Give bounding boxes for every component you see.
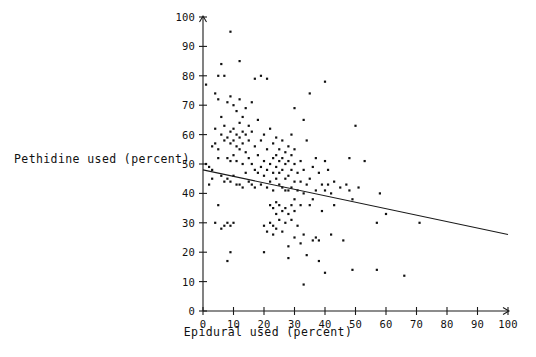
data-point <box>281 157 283 159</box>
data-point <box>290 219 292 221</box>
data-point <box>232 128 234 130</box>
data-point <box>318 260 320 262</box>
data-point <box>293 163 295 165</box>
data-point <box>251 101 253 103</box>
data-point <box>248 157 250 159</box>
data-point <box>281 210 283 212</box>
data-point <box>229 95 231 97</box>
data-point <box>266 78 268 80</box>
data-point <box>245 107 247 109</box>
data-point <box>324 272 326 274</box>
data-point <box>318 239 320 241</box>
data-point <box>223 181 225 183</box>
data-point <box>260 166 262 168</box>
data-point <box>248 139 250 141</box>
data-point <box>284 163 286 165</box>
data-point <box>354 125 356 127</box>
data-point <box>272 233 274 235</box>
data-point <box>232 222 234 224</box>
data-point <box>287 160 289 162</box>
data-point <box>275 136 277 138</box>
data-point <box>235 160 237 162</box>
data-point <box>330 192 332 194</box>
data-point <box>287 175 289 177</box>
data-point <box>226 178 228 180</box>
data-point <box>223 75 225 77</box>
data-point <box>260 139 262 141</box>
data-point <box>229 225 231 227</box>
y-tick-label: 0 <box>155 305 195 317</box>
data-point <box>214 222 216 224</box>
data-point <box>220 175 222 177</box>
data-point <box>303 233 305 235</box>
data-point <box>239 183 241 185</box>
data-point <box>275 201 277 203</box>
data-point <box>211 169 213 171</box>
data-point <box>235 110 237 112</box>
data-point <box>376 222 378 224</box>
data-point <box>235 183 237 185</box>
data-point <box>239 60 241 62</box>
y-tick-label: 80 <box>155 70 195 82</box>
data-point <box>257 154 259 156</box>
data-point <box>278 160 280 162</box>
axes-group <box>200 16 510 315</box>
data-point <box>351 198 353 200</box>
data-point <box>379 192 381 194</box>
data-point <box>220 63 222 65</box>
data-point <box>333 204 335 206</box>
data-point <box>269 128 271 130</box>
data-point <box>217 148 219 150</box>
data-point <box>385 213 387 215</box>
data-point <box>306 254 308 256</box>
data-point <box>239 98 241 100</box>
data-point <box>245 134 247 136</box>
data-point <box>345 183 347 185</box>
data-point <box>245 151 247 153</box>
data-point <box>287 257 289 259</box>
data-point <box>232 154 234 156</box>
data-point <box>214 142 216 144</box>
data-point <box>278 204 280 206</box>
data-point <box>220 116 222 118</box>
data-point <box>309 204 311 206</box>
data-point <box>315 189 317 191</box>
data-point <box>211 145 213 147</box>
data-points-group <box>205 31 421 286</box>
data-point <box>269 222 271 224</box>
data-point <box>306 139 308 141</box>
data-point <box>229 251 231 253</box>
data-point <box>245 172 247 174</box>
data-point <box>229 142 231 144</box>
y-tick-label: 50 <box>155 158 195 170</box>
data-point <box>260 75 262 77</box>
y-tick-label: 70 <box>155 99 195 111</box>
data-point <box>272 172 274 174</box>
data-point <box>229 131 231 133</box>
data-point <box>284 189 286 191</box>
data-point <box>217 157 219 159</box>
data-point <box>318 172 320 174</box>
data-point <box>278 172 280 174</box>
regression-trend-line <box>203 170 508 235</box>
data-point <box>229 31 231 33</box>
data-point <box>309 92 311 94</box>
data-point <box>324 81 326 83</box>
data-point <box>226 136 228 138</box>
data-point <box>324 189 326 191</box>
data-point <box>266 148 268 150</box>
data-point <box>266 169 268 171</box>
y-tick-label: 90 <box>155 40 195 52</box>
y-tick-label: 100 <box>155 11 195 23</box>
data-point <box>239 148 241 150</box>
data-point <box>254 78 256 80</box>
data-point <box>208 166 210 168</box>
data-point <box>284 207 286 209</box>
y-tick-label: 30 <box>155 217 195 229</box>
data-point <box>254 169 256 171</box>
data-point <box>242 163 244 165</box>
data-point <box>217 204 219 206</box>
data-point <box>251 163 253 165</box>
data-point <box>306 183 308 185</box>
data-point <box>263 160 265 162</box>
